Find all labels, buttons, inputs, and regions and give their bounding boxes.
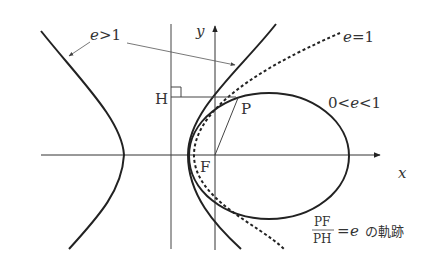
ellipse-curve: [189, 93, 349, 219]
locus-caption: PF PH = e の軌跡: [312, 215, 404, 246]
fraction-denominator: PH: [313, 232, 332, 246]
leader-arrow-left: [69, 42, 90, 56]
caption-suffix: の軌跡: [365, 224, 404, 239]
x-axis-label: x: [398, 164, 407, 182]
right-angle-mark: [171, 87, 181, 97]
hyperbola-left-branch: [41, 31, 124, 249]
parabola-label: e=1: [343, 28, 374, 46]
y-axis-label: y: [195, 22, 205, 40]
point-f-label: F: [200, 158, 210, 176]
point-p-label: P: [241, 100, 251, 118]
fraction-numerator: PF: [314, 215, 330, 229]
caption-equals: =: [337, 222, 350, 240]
ellipse-label: 0<e<1: [328, 94, 381, 112]
leader-arrow-right: [127, 43, 235, 65]
conic-locus-diagram: y x H P F e>1 e=1 0<e<1 PF PH = e の軌跡: [0, 0, 432, 269]
caption-var: e: [350, 222, 359, 240]
point-h-label: H: [155, 90, 168, 108]
hyperbola-label: e>1: [90, 26, 121, 44]
